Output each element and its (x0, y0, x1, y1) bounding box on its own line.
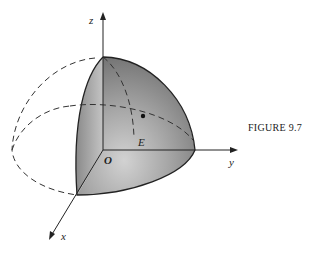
x-axis-arrow-icon (49, 231, 55, 240)
region-label: E (137, 136, 145, 148)
y-axis-label: y (228, 156, 234, 168)
point-marker (141, 114, 145, 118)
z-axis-arrow-icon (100, 12, 106, 20)
z-axis-label: z (88, 14, 94, 26)
figure-diagram: z y x O E FIGURE 9.7 (0, 0, 323, 255)
figure-caption: FIGURE 9.7 (248, 122, 302, 133)
x-axis-label: x (60, 230, 66, 242)
origin-label: O (104, 154, 112, 166)
y-axis-arrow-icon (230, 147, 238, 153)
dashed-equator-back (12, 106, 70, 150)
